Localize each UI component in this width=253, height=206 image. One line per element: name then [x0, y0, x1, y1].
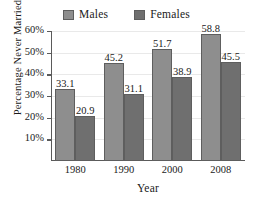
bar-value-label: 58.8 [202, 23, 220, 34]
bar-females-1980[interactable]: 20.9 [75, 116, 95, 161]
bar-females-2008[interactable]: 45.5 [221, 62, 241, 161]
y-tick-label: 10% [25, 132, 44, 143]
bar-value-label: 51.7 [153, 38, 171, 49]
x-tick-label-1990: 1990 [113, 164, 134, 175]
legend-label-females: Females [150, 9, 190, 20]
bar-males-1980[interactable]: 33.1 [55, 89, 75, 161]
y-tick-label: 20% [25, 111, 44, 122]
x-tick-label-2000: 2000 [162, 164, 183, 175]
bar-chart: Males Females Percentage Never Married 1… [0, 0, 253, 206]
bar-group: 58.845.5 [201, 31, 241, 161]
y-axis-ticks: 10%20%30%40%50%60% [0, 31, 51, 161]
bar-value-label: 45.2 [105, 52, 123, 63]
x-tick-label-2008: 2008 [210, 164, 231, 175]
bar-group: 45.231.1 [104, 31, 144, 161]
bar-value-label: 38.9 [173, 66, 191, 77]
legend-entry-females: Females [134, 9, 190, 20]
legend-swatch-females-icon [134, 10, 145, 20]
y-tick-label: 30% [25, 89, 44, 100]
legend-entry-males: Males [63, 9, 108, 20]
bar-females-2000[interactable]: 38.9 [172, 77, 192, 161]
chart-legend: Males Females [0, 9, 253, 20]
y-tick-label: 40% [25, 67, 44, 78]
bar-group: 51.738.9 [152, 31, 192, 161]
legend-swatch-males-icon [63, 10, 74, 20]
x-axis-title: Year [51, 182, 245, 194]
bar-value-label: 20.9 [76, 105, 94, 116]
bar-group: 33.120.9 [55, 31, 95, 161]
x-axis-ticks: 1980199020002008 [51, 162, 245, 178]
bar-value-label: 45.5 [222, 51, 240, 62]
y-tick-label: 50% [25, 46, 44, 57]
bar-value-label: 31.1 [125, 83, 143, 94]
bar-value-label: 33.1 [56, 78, 74, 89]
bar-males-1990[interactable]: 45.2 [104, 63, 124, 161]
legend-label-males: Males [79, 9, 108, 20]
bar-females-1990[interactable]: 31.1 [124, 94, 144, 161]
bar-groups: 33.120.945.231.151.738.958.845.5 [51, 31, 245, 161]
x-tick-label-1980: 1980 [65, 164, 86, 175]
bar-males-2000[interactable]: 51.7 [152, 49, 172, 161]
bar-males-2008[interactable]: 58.8 [201, 34, 221, 161]
y-tick-label: 60% [25, 24, 44, 35]
